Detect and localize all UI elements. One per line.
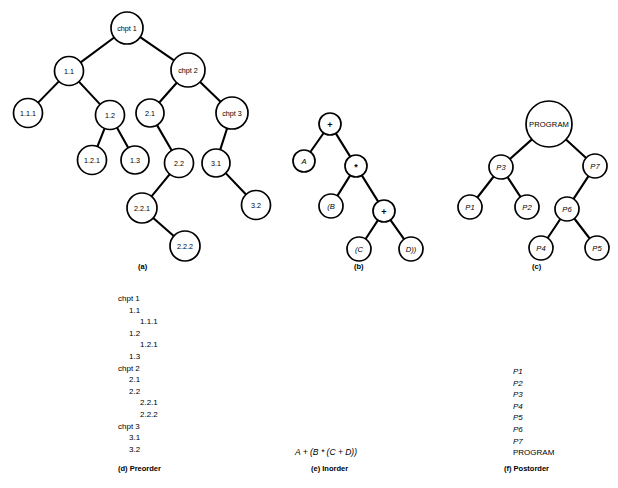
node-label: 1.2 xyxy=(105,111,115,120)
node-circle xyxy=(345,155,367,177)
node-circle xyxy=(585,236,609,260)
postorder-listing: P1P2P3P4P5P6P7PROGRAM xyxy=(513,366,554,459)
node-label: 2.2.2 xyxy=(177,242,193,251)
caption-panel-c: (c) xyxy=(532,262,541,271)
tree-edge xyxy=(38,81,59,102)
caption-panel-e: (e) Inorder xyxy=(311,464,348,473)
preorder-item: 1.2.1 xyxy=(118,339,158,351)
node-label: 1.3 xyxy=(130,156,140,165)
preorder-item: 1.1 xyxy=(118,305,158,317)
node-label: P3 xyxy=(496,163,506,172)
node-circle xyxy=(171,53,205,87)
node-label: D)) xyxy=(406,245,417,254)
postorder-item: P4 xyxy=(513,401,554,413)
tree-node: 3.1 xyxy=(202,149,230,177)
postorder-item: P6 xyxy=(513,424,554,436)
tree-node: 1.2 xyxy=(96,101,125,130)
tree-node: A xyxy=(293,150,315,172)
tree-node: chpt 3 xyxy=(216,97,248,129)
inorder-expression: A + (B * (C + D)) xyxy=(295,447,357,457)
tree-edge xyxy=(574,219,589,239)
node-circle xyxy=(515,195,539,219)
node-label: P1 xyxy=(465,203,474,212)
tree-node: 1.2.1 xyxy=(78,146,107,175)
tree-node: + xyxy=(373,200,395,222)
node-circle xyxy=(319,194,343,218)
tree-edge xyxy=(79,82,100,105)
tree-node: D)) xyxy=(399,237,423,261)
tree-node: * xyxy=(345,155,367,177)
tree-edge xyxy=(97,128,104,146)
node-label: 3.2 xyxy=(251,201,261,210)
caption-panel-d: (d) Preorder xyxy=(118,464,161,473)
node-circle xyxy=(399,237,423,261)
node-label: 2.2 xyxy=(174,159,184,168)
node-label: 2.1 xyxy=(145,109,155,118)
postorder-item: PROGRAM xyxy=(513,447,554,459)
preorder-item: 2.1 xyxy=(118,374,158,386)
tree-node: 2.2.2 xyxy=(170,231,200,261)
node-circle xyxy=(170,231,200,261)
preorder-listing: chpt 11.11.1.11.21.2.11.3chpt 22.12.22.2… xyxy=(118,293,158,455)
tree-edge xyxy=(336,133,350,156)
tree-node: PROGRAM xyxy=(526,101,572,147)
tree-node: 1.1 xyxy=(55,57,84,86)
node-circle xyxy=(202,149,230,177)
tree-node: 1.3 xyxy=(121,146,149,174)
tree-edge xyxy=(366,220,378,239)
preorder-item: 3.2 xyxy=(118,444,158,456)
node-label: P6 xyxy=(562,205,572,214)
preorder-item: chpt 2 xyxy=(118,363,158,375)
node-label: 1.1.1 xyxy=(20,109,36,118)
node-label: 2.2.1 xyxy=(134,204,150,213)
node-label: * xyxy=(354,162,358,172)
preorder-item: 3.1 xyxy=(118,432,158,444)
caption-panel-a: (a) xyxy=(138,262,147,271)
node-label: 3.1 xyxy=(211,159,221,168)
postorder-item: P2 xyxy=(513,378,554,390)
postorder-item: P5 xyxy=(513,412,554,424)
tree-edge xyxy=(310,133,323,152)
tree-node: (C xyxy=(347,237,371,261)
tree-node: P2 xyxy=(515,195,539,219)
preorder-item: 1.2 xyxy=(118,328,158,340)
tree-edge xyxy=(81,38,114,63)
tree-node: + xyxy=(319,113,341,135)
tree-node: (B xyxy=(319,194,343,218)
tree-edge xyxy=(159,83,176,103)
node-circle xyxy=(458,195,482,219)
tree-edge xyxy=(574,176,589,199)
figure-canvas: chpt 11.1chpt 21.1.11.22.1chpt 31.2.11.3… xyxy=(0,0,618,488)
tree-edge xyxy=(220,128,227,149)
preorder-item: 2.2 xyxy=(118,386,158,398)
preorder-item: 1.3 xyxy=(118,351,158,363)
postorder-item: P3 xyxy=(513,389,554,401)
node-circle xyxy=(489,155,513,179)
tree-edge xyxy=(510,139,532,159)
edges-layer xyxy=(38,37,590,239)
tree-edge xyxy=(566,140,586,158)
node-circle xyxy=(14,99,43,128)
preorder-item: 1.1.1 xyxy=(118,316,158,328)
node-label: chpt 3 xyxy=(222,109,242,118)
tree-edge xyxy=(117,128,128,148)
node-label: PROGRAM xyxy=(529,120,569,129)
tree-edge xyxy=(362,175,378,201)
node-circle xyxy=(96,101,125,130)
tree-node: 2.2 xyxy=(165,149,194,178)
tree-edge xyxy=(153,218,174,236)
node-circle xyxy=(216,97,248,129)
tree-node: P1 xyxy=(458,195,482,219)
node-label: + xyxy=(327,120,332,130)
node-label: P2 xyxy=(522,203,532,212)
node-circle xyxy=(373,200,395,222)
node-circle xyxy=(111,12,143,44)
node-circle xyxy=(127,193,157,223)
node-circle xyxy=(319,113,341,135)
tree-node: P6 xyxy=(555,197,579,221)
tree-node: P5 xyxy=(585,236,609,260)
tree-node: P3 xyxy=(489,155,513,179)
node-label: A xyxy=(300,157,306,166)
node-label: 1.1 xyxy=(64,67,74,76)
node-circle xyxy=(293,150,315,172)
